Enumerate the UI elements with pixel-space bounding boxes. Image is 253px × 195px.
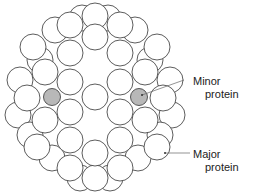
major-subunit xyxy=(82,140,108,166)
major-subunit xyxy=(107,127,133,153)
major-subunit xyxy=(32,59,58,85)
major-subunit xyxy=(107,12,133,38)
major-subunit xyxy=(144,134,170,160)
major-leader-dot xyxy=(164,152,166,154)
major-subunit xyxy=(82,84,108,110)
major-subunit xyxy=(20,34,46,60)
minor-label-line1: Minor xyxy=(193,75,221,87)
major-protein-label: Major protein xyxy=(193,148,239,174)
major-subunit xyxy=(107,69,133,95)
major-subunit xyxy=(82,24,108,50)
major-subunit xyxy=(14,85,40,111)
major-subunit xyxy=(107,99,133,125)
major-subunit xyxy=(57,12,83,38)
minor-leader-dot xyxy=(141,94,143,96)
major-subunit xyxy=(32,107,58,133)
minor-protein-label: Minor protein xyxy=(193,75,239,101)
major-subunit xyxy=(57,127,83,153)
major-subunit xyxy=(57,99,83,125)
major-protein-subunits xyxy=(14,12,176,181)
major-subunit xyxy=(57,155,83,181)
major-subunit xyxy=(57,40,83,66)
minor-subunit xyxy=(44,89,61,106)
back-subunit xyxy=(82,165,108,191)
minor-subunit xyxy=(131,89,148,106)
major-label-line1: Major xyxy=(193,148,221,160)
major-subunit xyxy=(144,34,170,60)
major-subunit xyxy=(132,59,158,85)
major-subunit xyxy=(24,134,50,160)
major-label-line2: protein xyxy=(193,161,239,174)
major-subunit xyxy=(57,69,83,95)
major-subunit xyxy=(107,155,133,181)
major-subunit xyxy=(132,107,158,133)
major-subunit xyxy=(150,85,176,111)
major-subunit xyxy=(107,40,133,66)
minor-label-line2: protein xyxy=(193,88,239,101)
